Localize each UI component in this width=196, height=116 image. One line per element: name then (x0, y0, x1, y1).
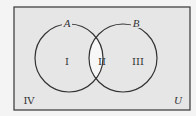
region-ii-label: II (98, 56, 106, 67)
region-i-label: I (65, 56, 69, 67)
universe-label: U (174, 94, 183, 106)
set-b-label: B (133, 17, 140, 29)
set-a-label: A (63, 17, 71, 29)
venn-diagram: A B I II III IV U (0, 0, 196, 116)
region-iv-label: IV (23, 95, 35, 106)
region-iii-label: III (132, 56, 144, 67)
